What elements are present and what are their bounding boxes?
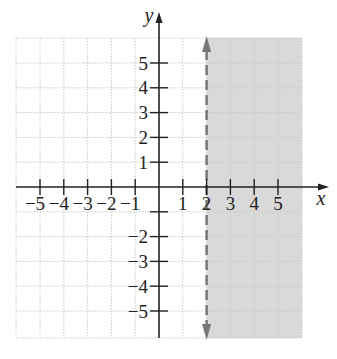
inequality-graph: −5−4−3−2−11234554321−2−3−4−5xy <box>0 0 337 359</box>
y-axis-label: y <box>143 4 154 27</box>
x-tick-label: −4 <box>49 193 70 214</box>
y-tick-label: −5 <box>128 301 148 322</box>
x-tick-label: −5 <box>25 193 45 214</box>
x-axis-label: x <box>316 187 326 209</box>
x-tick-label: 2 <box>202 193 212 214</box>
y-tick-label: 5 <box>139 53 149 74</box>
y-tick-label: 1 <box>139 152 149 173</box>
y-tick-label: 3 <box>139 102 149 123</box>
x-tick-label: 1 <box>178 193 188 214</box>
x-tick-label: 4 <box>249 193 259 214</box>
y-axis-arrow-icon <box>156 12 163 23</box>
y-tick-label: 2 <box>139 127 149 148</box>
y-tick-label: −2 <box>128 226 148 247</box>
x-tick-label: −3 <box>72 193 92 214</box>
y-tick-label: −3 <box>128 251 148 272</box>
x-tick-label: −2 <box>96 193 116 214</box>
y-tick-label: 4 <box>139 77 149 98</box>
x-tick-label: 5 <box>273 193 283 214</box>
y-tick-label: −4 <box>128 276 149 297</box>
x-tick-label: −1 <box>120 193 140 214</box>
x-tick-label: 3 <box>226 193 236 214</box>
